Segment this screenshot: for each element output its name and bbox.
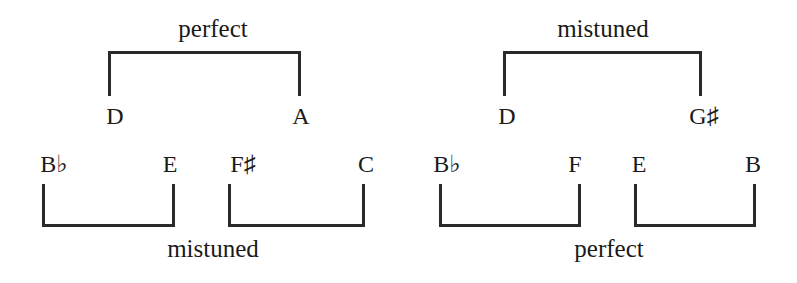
bottom-interval-label: mistuned <box>167 236 259 261</box>
top-interval-label: perfect <box>178 16 247 41</box>
bottom-interval-label: perfect <box>574 236 643 261</box>
note-top-right: G♯ <box>689 104 718 128</box>
note-top-right: A <box>292 104 309 128</box>
note-bottom-1: B♭ <box>433 152 460 176</box>
top-bracket <box>108 51 301 96</box>
bottom-bracket-left <box>42 184 175 227</box>
note-top-left: D <box>498 104 515 128</box>
note-bottom-1: B♭ <box>40 152 67 176</box>
bottom-bracket-left <box>439 184 581 227</box>
note-bottom-4: B <box>745 152 761 176</box>
note-bottom-3: F♯ <box>230 152 255 176</box>
top-interval-label: mistuned <box>557 16 649 41</box>
bottom-bracket-right <box>634 184 756 227</box>
interval-diagram-right: mistuned D G♯ B♭ F E B perfect <box>397 0 795 283</box>
note-bottom-2: F <box>568 152 581 176</box>
note-bottom-2: E <box>163 152 178 176</box>
note-bottom-3: E <box>632 152 647 176</box>
top-bracket <box>503 51 702 96</box>
interval-diagram-left: perfect D A B♭ E F♯ C mistuned <box>0 0 398 283</box>
note-top-left: D <box>106 104 123 128</box>
bottom-bracket-right <box>228 184 365 227</box>
note-bottom-4: C <box>358 152 374 176</box>
